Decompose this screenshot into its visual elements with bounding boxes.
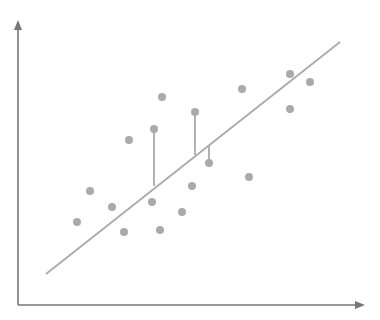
regression-line <box>46 42 340 274</box>
data-point <box>191 108 199 116</box>
scatter-plot <box>0 0 380 320</box>
data-point <box>158 93 166 101</box>
data-point <box>148 198 156 206</box>
data-point <box>73 218 81 226</box>
data-points <box>73 70 314 236</box>
regression-line-path <box>46 42 340 274</box>
data-point <box>108 203 116 211</box>
data-point <box>238 85 246 93</box>
data-point <box>286 105 294 113</box>
data-point <box>188 182 196 190</box>
residual-lines <box>154 112 209 186</box>
data-point <box>245 173 253 181</box>
data-point <box>125 136 133 144</box>
data-point <box>205 159 213 167</box>
data-point <box>286 70 294 78</box>
data-point <box>156 226 164 234</box>
data-point <box>150 125 158 133</box>
y-axis-arrow-icon <box>14 20 22 30</box>
x-axis-arrow-icon <box>355 301 365 309</box>
data-point <box>178 208 186 216</box>
data-point <box>120 228 128 236</box>
data-point <box>86 187 94 195</box>
data-point <box>306 78 314 86</box>
